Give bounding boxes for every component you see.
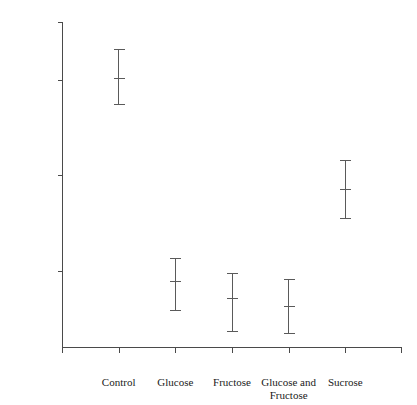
x-axis-end-mark — [62, 348, 63, 353]
error-bar-mean-marker — [227, 298, 238, 299]
x-tick-mark — [345, 348, 346, 353]
y-axis-line — [62, 22, 63, 348]
x-tick-mark — [119, 348, 120, 353]
x-tick-label-line: Sucrose — [299, 376, 391, 389]
x-tick-label: Sucrose — [299, 376, 391, 389]
x-tick-mark — [289, 348, 290, 353]
error-bar-mean-marker — [340, 189, 351, 190]
plot-area: 565758596061626364656667686970717273 Con… — [62, 22, 402, 348]
error-bar-mean-marker — [114, 78, 125, 79]
error-bar-chart: Y (Length in ocular units) 5657585960616… — [0, 0, 417, 405]
error-bar-stem — [232, 273, 233, 331]
error-bar-upper-cap — [340, 160, 351, 161]
error-bar-lower-cap — [227, 331, 238, 332]
x-axis-end-mark — [401, 348, 402, 353]
x-tick-mark — [232, 348, 233, 353]
error-bar-lower-cap — [340, 218, 351, 219]
error-bar-lower-cap — [114, 104, 125, 105]
x-tick-label-line: Fructose — [243, 389, 335, 402]
error-bar-stem — [175, 258, 176, 310]
error-bar-mean-marker — [284, 306, 295, 307]
error-bar-upper-cap — [114, 49, 125, 50]
error-bar-mean-marker — [170, 281, 181, 282]
x-tick-mark — [175, 348, 176, 353]
error-bar-lower-cap — [170, 310, 181, 311]
error-bar-upper-cap — [170, 258, 181, 259]
error-bar-upper-cap — [284, 279, 295, 280]
error-bar-upper-cap — [227, 273, 238, 274]
y-tick-mark — [58, 271, 62, 272]
y-tick-mark — [58, 22, 62, 23]
y-tick-mark — [58, 175, 62, 176]
y-tick-mark — [58, 80, 62, 81]
error-bar-lower-cap — [284, 333, 295, 334]
